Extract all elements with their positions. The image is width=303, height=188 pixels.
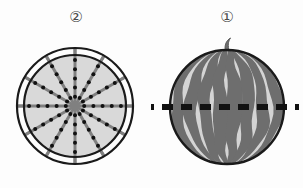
seed-dot (64, 120, 68, 124)
seed-dot (36, 104, 40, 108)
seed-dot (81, 109, 85, 113)
seed-dot (89, 95, 93, 99)
seed-dot (64, 104, 68, 108)
seed-dot (82, 104, 86, 108)
seed-dot (82, 120, 86, 124)
seed-dot (64, 88, 68, 92)
seed-dot (65, 99, 69, 103)
seed-dot (73, 76, 77, 80)
seed-dot (78, 112, 82, 116)
seed-dot (101, 104, 105, 108)
seed-dot (55, 104, 59, 108)
watermelon-figure: ② ① (0, 0, 303, 188)
seed-dot (87, 80, 91, 84)
seed-dot (119, 104, 123, 108)
seed-dot (27, 104, 31, 108)
seed-dot (73, 67, 77, 71)
seed-dot (73, 122, 77, 126)
seed-dot (49, 118, 53, 122)
seed-dot (89, 113, 93, 117)
seed-dot (33, 127, 37, 131)
seed-dot (73, 132, 77, 136)
seed-dot (41, 122, 45, 126)
seed-dot (50, 64, 54, 68)
whole-melon-drawing (151, 0, 303, 188)
seed-dot (113, 81, 117, 85)
seed-dot (105, 122, 109, 126)
seed-dot (57, 113, 61, 117)
seed-dot (110, 104, 114, 108)
seed-dot (65, 109, 69, 113)
seed-dot (91, 72, 95, 76)
seed-dot (81, 99, 85, 103)
seed-dot (91, 136, 95, 140)
seed-dot (57, 95, 61, 99)
seed-dot (97, 118, 101, 122)
seed-dot (73, 86, 77, 90)
seed-dot (87, 128, 91, 132)
cross-section-drawing (0, 0, 152, 188)
seed-dot (96, 144, 100, 148)
seed-dot (59, 80, 63, 84)
seed-dot (50, 144, 54, 148)
seed-dot (113, 127, 117, 131)
seed-dot (59, 128, 63, 132)
seed-dot (73, 58, 77, 62)
seed-dot (105, 86, 109, 90)
panel-cross-section: ② (0, 0, 152, 188)
seed-dot (82, 88, 86, 92)
seed-dot (55, 72, 59, 76)
seed-dot (96, 64, 100, 68)
seed-dot (73, 141, 77, 145)
seed-dot (41, 86, 45, 90)
panel-whole-melon: ① (151, 0, 303, 188)
seed-dot (55, 136, 59, 140)
seed-dot (49, 90, 53, 94)
seed-dot (45, 104, 49, 108)
seed-dot (78, 96, 82, 100)
seed-dot (33, 81, 37, 85)
seed-dot (68, 112, 72, 116)
seed-dot (73, 95, 77, 99)
seed-dot (68, 96, 72, 100)
seed-dot (73, 113, 77, 117)
seed-dot (97, 90, 101, 94)
seed-dot (73, 150, 77, 154)
seed-dot (91, 104, 95, 108)
